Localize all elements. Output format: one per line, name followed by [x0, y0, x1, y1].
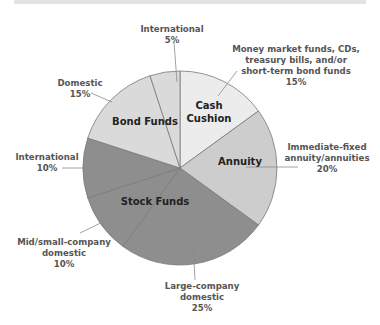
intl-stock-label-2: 10% [37, 163, 58, 173]
pie-slices [83, 71, 277, 265]
midsmall-label-3: 10% [54, 259, 75, 269]
cash-label-4: 15% [286, 77, 307, 87]
large-label-3: 25% [192, 303, 213, 313]
annuity-label-3: 20% [317, 164, 338, 174]
large-label-2: domestic [180, 292, 224, 302]
annuity-label-2: annuity/annuities [284, 153, 369, 163]
intl-stock-label-1: International [15, 152, 78, 162]
cash-label-2: treasury bills, and/or [245, 55, 348, 65]
cash-label-3: short-term bond funds [241, 66, 351, 76]
stock-funds-label: Stock Funds [121, 196, 190, 207]
midsmall-label-1: Mid/small-company [17, 237, 111, 247]
annuity-label-1: Immediate-fixed [287, 142, 366, 152]
intl-bond-label-1: International [140, 24, 203, 34]
bond-funds-label: Bond Funds [112, 116, 178, 127]
dom-bond-label-2: 15% [70, 89, 91, 99]
cash-cushion-label-1: Cash [195, 100, 222, 111]
midsmall-label-2: domestic [42, 248, 86, 258]
cash-label-1: Money market funds, CDs, [232, 44, 360, 54]
large-label-1: Large-company [165, 281, 240, 291]
annuity-label: Annuity [218, 156, 262, 167]
dom-bond-label-1: Domestic [57, 78, 102, 88]
pie-chart: Cash Cushion Annuity Stock Funds Bond Fu… [0, 0, 380, 325]
intl-bond-label-2: 5% [165, 35, 180, 45]
cash-cushion-label-2: Cushion [187, 113, 232, 124]
